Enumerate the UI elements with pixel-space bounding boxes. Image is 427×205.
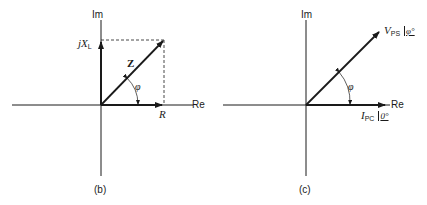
r-label: R <box>159 109 166 120</box>
diagram-c <box>223 20 390 176</box>
diagram-b <box>12 20 193 176</box>
re-axis-label-c: Re <box>391 100 404 110</box>
vps-vector <box>306 32 379 105</box>
jxl-label: jXL <box>78 38 92 50</box>
caption-c: (c) <box>299 185 311 195</box>
re-axis-label-b: Re <box>192 100 205 110</box>
ipc-label: IPC0° <box>361 110 389 122</box>
vps-label: VPSφ° <box>384 25 415 37</box>
phasor-diagrams <box>0 0 427 205</box>
im-axis-label-c: Im <box>301 10 312 20</box>
z-label: Z <box>127 58 134 69</box>
caption-b: (b) <box>94 185 106 195</box>
z-vector <box>101 41 163 105</box>
phi-label-c: φ <box>348 82 354 92</box>
im-axis-label-b: Im <box>92 10 103 20</box>
phi-label-b: φ <box>135 82 141 92</box>
